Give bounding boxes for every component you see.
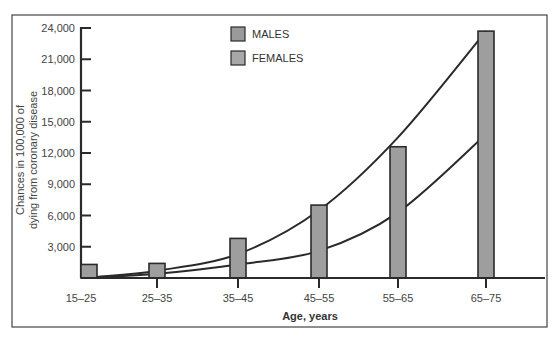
legend-label-males: MALES [252, 28, 289, 40]
x-tick-label: 35–45 [223, 292, 254, 304]
legend-swatch-males [231, 27, 245, 41]
bar [81, 264, 97, 278]
y-tick-label: 24,000 [41, 22, 75, 34]
y-tick-label: 9,000 [47, 178, 75, 190]
x-axis: 15–2525–3535–4545–5555–6565–75 [66, 278, 545, 304]
x-tick-label: 25–35 [142, 292, 173, 304]
y-tick-label: 6,000 [47, 210, 75, 222]
bar [478, 31, 494, 278]
bar [149, 263, 165, 278]
x-axis-title: Age, years [282, 310, 338, 322]
legend-swatch-females [231, 51, 245, 65]
females-curve [97, 134, 486, 277]
x-tick-label: 15–25 [66, 292, 97, 304]
x-tick-label: 55–65 [383, 292, 414, 304]
coronary-chart: 3,0006,0009,00012,00015,00018,00021,0002… [0, 0, 560, 340]
y-tick-label: 18,000 [41, 85, 75, 97]
bar [390, 147, 406, 278]
x-tick-label: 45–55 [304, 292, 335, 304]
y-tick-label: 3,000 [47, 241, 75, 253]
y-tick-label: 21,000 [41, 53, 75, 65]
y-axis-title-line: dying from coronary disease [27, 91, 39, 229]
y-tick-label: 12,000 [41, 147, 75, 159]
legend-label-females: FEMALES [252, 52, 303, 64]
bar [230, 238, 246, 278]
y-tick-label: 15,000 [41, 116, 75, 128]
y-axis: 3,0006,0009,00012,00015,00018,00021,0002… [41, 22, 91, 278]
legend: MALES FEMALES [231, 27, 303, 65]
bars [81, 31, 494, 278]
y-axis-title: Chances in 100,000 ofdying from coronary… [14, 91, 39, 229]
bar [311, 205, 327, 278]
curves [97, 31, 486, 277]
x-tick-label: 65–75 [471, 292, 502, 304]
y-axis-title-line: Chances in 100,000 of [14, 104, 26, 215]
males-curve [97, 31, 486, 277]
